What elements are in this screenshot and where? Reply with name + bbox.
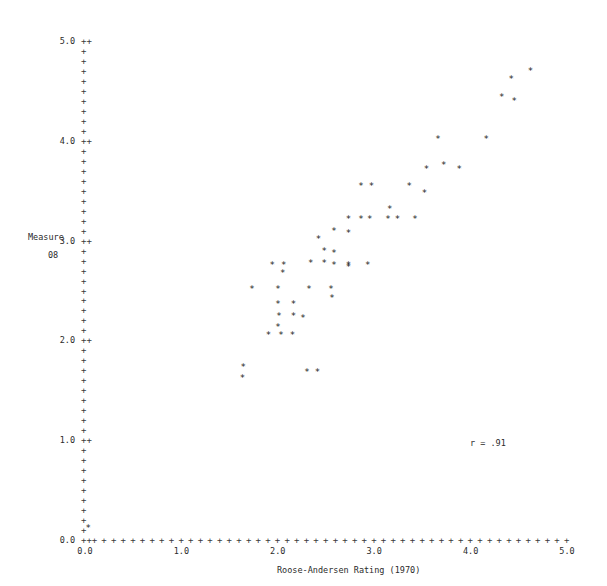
data-point: * xyxy=(306,285,311,294)
y-axis-minor-tick: + xyxy=(81,456,86,465)
data-point: * xyxy=(331,261,336,270)
x-axis-minor-tick: + xyxy=(323,536,328,545)
y-axis-minor-tick: + xyxy=(81,207,86,216)
y-axis-minor-tick: + xyxy=(81,396,86,405)
x-axis-minor-tick: + xyxy=(535,536,540,545)
y-axis-minor-tick: + xyxy=(81,446,86,455)
x-axis-minor-tick: + xyxy=(130,536,135,545)
y-axis-minor-tick: + xyxy=(81,466,86,475)
data-point: * xyxy=(441,161,446,170)
data-point: * xyxy=(346,215,351,224)
x-axis-minor-tick: + xyxy=(487,536,492,545)
data-point: * xyxy=(249,285,254,294)
y-axis-minor-tick: + xyxy=(81,97,86,106)
data-point: * xyxy=(528,67,533,76)
data-point: * xyxy=(275,323,280,332)
y-axis-minor-tick: + xyxy=(81,267,86,276)
x-axis-major-tick: + xyxy=(468,536,473,545)
data-point: * xyxy=(241,363,246,372)
data-point: * xyxy=(358,215,363,224)
y-axis-minor-tick: + xyxy=(81,117,86,126)
x-axis-minor-tick: + xyxy=(188,536,193,545)
x-axis-major-tick: + xyxy=(275,536,280,545)
data-point: * xyxy=(275,285,280,294)
y-axis-minor-tick: + xyxy=(81,386,86,395)
y-axis-tick-label: 4.0 xyxy=(41,137,75,146)
data-point: * xyxy=(304,368,309,377)
y-axis-minor-tick: + xyxy=(81,506,86,515)
y-axis-minor-tick: + xyxy=(81,486,86,495)
x-axis-minor-tick: + xyxy=(198,536,203,545)
data-point: * xyxy=(328,285,333,294)
x-axis-minor-tick: + xyxy=(207,536,212,545)
data-point: * xyxy=(329,294,334,303)
x-axis-minor-tick: + xyxy=(284,536,289,545)
y-axis-major-tick: ++ xyxy=(81,37,92,46)
x-axis-minor-tick: + xyxy=(545,536,550,545)
x-axis-minor-tick: + xyxy=(439,536,444,545)
y-axis-minor-tick: + xyxy=(81,406,86,415)
x-axis-tick-label: 4.0 xyxy=(456,547,486,556)
x-axis-minor-tick: + xyxy=(477,536,482,545)
x-axis-minor-tick: + xyxy=(246,536,251,545)
x-axis-minor-tick: + xyxy=(92,536,97,545)
y-axis-minor-tick: + xyxy=(81,57,86,66)
x-axis-minor-tick: + xyxy=(448,536,453,545)
x-axis-major-tick: + xyxy=(371,536,376,545)
y-axis-minor-tick: + xyxy=(81,376,86,385)
x-axis-minor-tick: + xyxy=(525,536,530,545)
x-axis-tick-label: 5.0 xyxy=(552,547,582,556)
x-axis-minor-tick: + xyxy=(121,536,126,545)
y-axis-minor-tick: + xyxy=(81,77,86,86)
x-axis-tick-label: 0.0 xyxy=(70,547,100,556)
data-point: * xyxy=(511,97,516,106)
y-axis-tick-label: 0.0 xyxy=(41,536,75,545)
y-axis-minor-tick: + xyxy=(81,147,86,156)
y-axis-major-tick: ++ xyxy=(81,237,92,246)
data-point: * xyxy=(395,215,400,224)
y-axis-tick-label: 5.0 xyxy=(41,37,75,46)
y-axis-tick-label: 2.0 xyxy=(41,336,75,345)
y-axis-minor-tick: + xyxy=(81,217,86,226)
x-axis-minor-tick: + xyxy=(362,536,367,545)
x-axis-minor-tick: + xyxy=(554,536,559,545)
x-axis-major-tick: + xyxy=(178,536,183,545)
y-axis-minor-tick: + xyxy=(81,306,86,315)
data-point: * xyxy=(276,312,281,321)
x-axis-minor-tick: + xyxy=(342,536,347,545)
data-point: * xyxy=(322,247,327,256)
plot-canvas: ++++++++++++++++++++++++++++++++++++++++… xyxy=(0,0,607,586)
x-axis-minor-tick: + xyxy=(227,536,232,545)
x-axis-minor-tick: + xyxy=(236,536,241,545)
x-axis-minor-tick: + xyxy=(149,536,154,545)
data-point: * xyxy=(484,135,489,144)
x-axis-tick-label: 2.0 xyxy=(263,547,293,556)
y-axis-minor-tick: + xyxy=(81,287,86,296)
y-axis-minor-tick: + xyxy=(81,316,86,325)
data-point: * xyxy=(422,189,427,198)
y-axis-minor-tick: + xyxy=(81,346,86,355)
x-axis-minor-tick: + xyxy=(497,536,502,545)
data-point: * xyxy=(406,182,411,191)
x-axis-minor-tick: + xyxy=(506,536,511,545)
x-axis-minor-tick: + xyxy=(400,536,405,545)
x-axis-minor-tick: + xyxy=(101,536,106,545)
x-axis-minor-tick: + xyxy=(111,536,116,545)
x-axis-minor-tick: + xyxy=(217,536,222,545)
y-axis-minor-tick: + xyxy=(81,197,86,206)
y-axis-units-label: 08 xyxy=(48,250,58,261)
x-axis-minor-tick: + xyxy=(419,536,424,545)
x-axis-minor-tick: + xyxy=(256,536,261,545)
data-point: * xyxy=(290,331,295,340)
data-point: * xyxy=(308,259,313,268)
data-point: * xyxy=(424,165,429,174)
y-axis-minor-tick: + xyxy=(81,476,86,485)
y-axis-minor-tick: + xyxy=(81,107,86,116)
data-point: * xyxy=(300,314,305,323)
data-point: * xyxy=(331,249,336,258)
x-axis-tick-label: 3.0 xyxy=(359,547,389,556)
x-axis-minor-tick: + xyxy=(140,536,145,545)
y-axis-minor-tick: + xyxy=(81,277,86,286)
y-axis-minor-tick: + xyxy=(81,366,86,375)
data-point: * xyxy=(278,331,283,340)
